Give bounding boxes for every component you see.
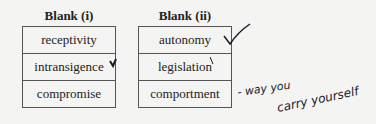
option-legislation[interactable]: legislation: [139, 53, 231, 80]
tick-mark-icon: [208, 56, 216, 66]
blank-ii-header: Blank (ii): [138, 6, 232, 26]
blank-i-options: receptivity intransigence compromise: [22, 26, 116, 108]
option-comportment[interactable]: comportment: [139, 80, 231, 107]
checkmark-icon: [222, 22, 252, 48]
blank-ii-options: autonomy legislation comportment: [138, 26, 232, 108]
blank-i-header: Blank (i): [22, 6, 116, 26]
option-compromise[interactable]: compromise: [23, 80, 115, 107]
blank-ii-column: Blank (ii) autonomy legislation comportm…: [138, 6, 232, 108]
blank-i-column: Blank (i) receptivity intransigence comp…: [22, 6, 116, 108]
option-autonomy[interactable]: autonomy: [139, 27, 231, 53]
svg-text:- way you: - way you: [238, 79, 291, 99]
option-receptivity[interactable]: receptivity: [23, 27, 115, 53]
pen-mark-icon: [108, 58, 118, 68]
handwritten-note: - way you carry yourself: [238, 68, 374, 118]
option-intransigence[interactable]: intransigence: [23, 53, 115, 80]
